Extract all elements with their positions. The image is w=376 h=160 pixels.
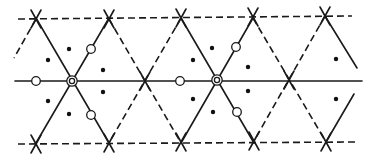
position-dot: [101, 68, 105, 72]
position-dot: [191, 58, 195, 62]
position-dot: [210, 46, 214, 50]
position-dot: [67, 47, 71, 51]
open-circle-icon: [176, 77, 185, 86]
dashed-line: [18, 142, 356, 144]
double-circle-icon: [67, 76, 77, 86]
position-dot: [246, 65, 250, 69]
position-dot: [246, 89, 250, 93]
position-dot: [67, 112, 71, 116]
position-dot: [334, 57, 338, 61]
position-dot: [191, 97, 195, 101]
lattice-diagram: [0, 0, 376, 160]
position-dot: [211, 110, 215, 114]
position-dot: [101, 90, 105, 94]
double-circle-icon: [212, 75, 222, 85]
position-dot: [46, 99, 50, 103]
open-circle-icon: [232, 43, 241, 52]
position-dot: [46, 58, 50, 62]
open-circle-icon: [32, 77, 41, 86]
cross-mark-icon: [176, 133, 186, 151]
open-circle-icon: [87, 45, 96, 54]
open-circle-icon: [87, 111, 96, 120]
cross-mark-icon: [284, 71, 294, 89]
dashed-line: [18, 16, 352, 19]
position-dot: [334, 97, 338, 101]
cross-mark-icon: [249, 132, 259, 150]
open-circle-icon: [233, 108, 242, 117]
dashed-glide-lines: [14, 16, 356, 144]
cross-mark-icon: [104, 10, 114, 28]
